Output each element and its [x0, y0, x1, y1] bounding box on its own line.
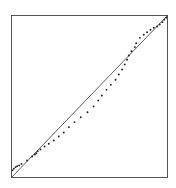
data-point	[37, 150, 39, 152]
data-point	[146, 31, 148, 33]
data-point	[11, 169, 13, 171]
data-point	[44, 146, 46, 148]
data-point	[16, 165, 18, 167]
qq-plot	[0, 0, 176, 188]
data-point	[124, 63, 126, 65]
data-point	[156, 26, 158, 28]
data-point	[93, 106, 95, 108]
data-point	[135, 42, 137, 44]
data-point	[161, 21, 163, 23]
data-point	[106, 89, 108, 91]
data-point	[40, 149, 42, 151]
data-point	[115, 79, 117, 81]
data-point	[63, 132, 65, 134]
data-point	[110, 84, 112, 86]
data-point	[150, 29, 152, 31]
data-point	[74, 121, 76, 123]
data-point	[58, 136, 60, 138]
data-point	[165, 17, 167, 19]
data-point	[134, 46, 136, 48]
data-point	[13, 168, 15, 170]
data-point	[53, 140, 55, 142]
data-point	[21, 163, 23, 165]
data-point	[34, 154, 36, 156]
data-point	[87, 111, 89, 113]
data-point	[97, 100, 99, 102]
data-point	[126, 59, 128, 61]
data-point	[153, 27, 155, 29]
data-point	[131, 50, 133, 52]
data-point	[118, 74, 120, 76]
data-point	[26, 160, 28, 162]
data-point	[163, 19, 165, 21]
data-point	[36, 152, 38, 154]
data-point	[159, 24, 161, 26]
data-point	[139, 37, 141, 39]
data-point	[80, 116, 82, 118]
data-point	[18, 165, 20, 167]
data-point	[68, 126, 70, 128]
data-point	[128, 55, 130, 57]
data-point	[48, 143, 50, 145]
reference-line	[12, 16, 168, 178]
data-point	[101, 95, 103, 97]
data-point	[31, 155, 33, 157]
data-point	[121, 68, 123, 70]
data-point	[143, 34, 145, 36]
